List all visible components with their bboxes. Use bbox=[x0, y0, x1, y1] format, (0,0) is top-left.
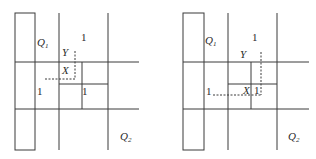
label-one-left: 1 bbox=[206, 85, 212, 97]
left-panel: Q1 Q2 Y X 1 1 1 bbox=[15, 13, 139, 150]
label-y: Y bbox=[62, 46, 70, 58]
label-one-top: 1 bbox=[81, 31, 87, 43]
tall-rectangle bbox=[183, 13, 204, 150]
label-q1: Q1 bbox=[37, 36, 48, 50]
label-one-left: 1 bbox=[37, 85, 43, 97]
diagram-canvas: Q1 Q2 Y X 1 1 1 Q1 Q2 Y X 1 1 1 bbox=[0, 0, 316, 159]
label-y: Y bbox=[240, 48, 248, 60]
label-q2: Q2 bbox=[288, 130, 300, 144]
right-panel: Q1 Q2 Y X 1 1 1 bbox=[183, 13, 309, 150]
label-x: X bbox=[242, 84, 251, 96]
label-q1: Q1 bbox=[205, 34, 216, 48]
label-q2: Q2 bbox=[120, 130, 132, 144]
label-x: X bbox=[61, 64, 70, 76]
label-one-inner: 1 bbox=[82, 85, 88, 97]
label-one-inner: 1 bbox=[254, 84, 260, 96]
tall-rectangle bbox=[15, 13, 35, 150]
label-one-top: 1 bbox=[252, 31, 258, 43]
